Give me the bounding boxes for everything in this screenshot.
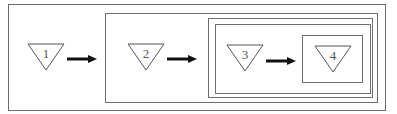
arrow-3-4 xyxy=(265,56,297,66)
node-3: 3 xyxy=(225,43,265,73)
node-2: 2 xyxy=(126,42,166,72)
node-3-label: 3 xyxy=(242,47,249,62)
node-2-label: 2 xyxy=(143,46,150,61)
arrow-1-2 xyxy=(66,54,98,64)
node-1-label: 1 xyxy=(43,46,50,61)
node-4: 4 xyxy=(313,44,353,74)
node-1: 1 xyxy=(26,42,66,72)
node-4-label: 4 xyxy=(330,48,337,63)
arrow-2-3 xyxy=(166,54,198,64)
